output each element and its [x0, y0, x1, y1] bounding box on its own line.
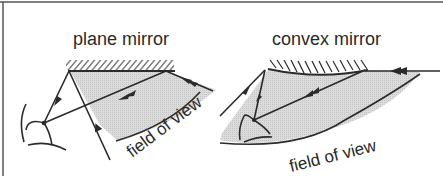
mirror-field-of-view-diagram: plane mirror	[0, 0, 443, 176]
plane-mirror-title: plane mirror	[73, 29, 169, 49]
convex-fov-label: field of view	[287, 136, 378, 176]
plane-mirror-panel: plane mirror	[21, 29, 216, 161]
convex-mirror-panel: convex mirror	[220, 29, 440, 176]
eye-icon	[21, 104, 66, 150]
arrow-icon	[242, 86, 250, 95]
convex-mirror-title: convex mirror	[272, 29, 381, 49]
plane-mirror-hatching	[66, 60, 174, 70]
